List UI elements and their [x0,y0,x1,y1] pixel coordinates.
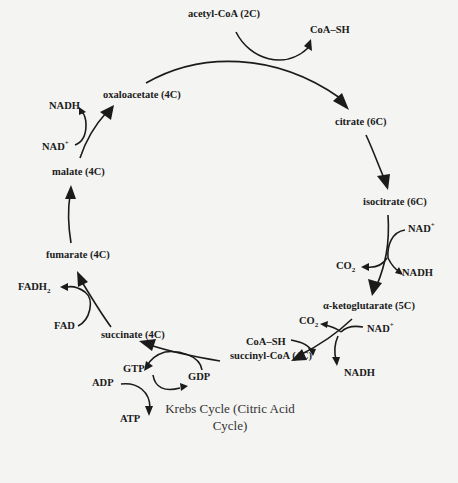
arrowhead-gdp [180,383,188,391]
label-nad-isocitrate: NAD+ [408,222,435,234]
title-line-2: Cycle) [150,417,310,434]
label-adp: ADP [92,378,114,389]
diagram-title: Krebs Cycle (Citric Acid Cycle) [150,400,310,434]
arrowhead-succinate [139,339,156,351]
label-fad: FAD [54,321,75,332]
arrowhead-co2 [361,263,369,271]
label-gdp: GDP [188,372,210,383]
arrow-gtp-to-gdp [153,375,180,389]
arrow-nad-in-isocitrate [388,230,405,258]
label-co2-akg: CO2 [299,316,318,329]
arrowhead-akg [368,279,382,296]
label-fadh2: FADH2 [18,282,50,295]
label-co2-isocitrate: CO2 [336,261,355,274]
label-nad-akg: NAD+ [367,322,394,334]
label-coa-sh-out: CoA–SH [310,25,350,36]
label-nadh-malate: NADH [49,101,80,112]
arrow-co2-out-akg [325,325,341,332]
arrowhead-fumarate [77,271,88,287]
label-malate: malate (4C) [52,167,105,178]
arrow-acetyl-coa-in [236,32,308,60]
label-atp: ATP [120,414,140,425]
label-nadh-akg: NADH [344,368,375,379]
label-nad-malate: NAD+ [42,140,69,152]
arrowhead-fadh2 [60,283,68,291]
arrowhead-malate [65,185,76,199]
label-isocitrate: isocitrate (6C) [363,197,427,208]
arrow-nadh-out-malate [82,112,86,125]
arrow-gdp-to-gtp [147,352,202,370]
arrow-succinate-to-fumarate [82,282,111,327]
arrow-nad-in-akg [341,326,363,332]
label-citrate: citrate (6C) [335,117,387,128]
label-fumarate: fumarate (4C) [46,250,110,261]
arrow-fumarate-to-malate [69,195,71,243]
label-coa-sh-in: CoA–SH [246,337,286,348]
label-succinyl-coa: succinyl-CoA (4C) [230,351,312,362]
label-succinate: succinate (4C) [101,330,165,341]
title-line-1: Krebs Cycle (Citric Acid [150,400,310,417]
arrow-citrate-to-isocitrate [366,135,385,180]
krebs-cycle-diagram: acetyl-CoA (2C) CoA–SH oxaloacetate (4C)… [0,0,458,483]
arrowhead-coa-sh [304,39,312,51]
arrow-adp-to-atp [121,384,150,408]
arrow-nad-in-malate [75,125,86,145]
arrowhead-nadh-akg [332,357,340,366]
arrowhead-co2-akg [320,321,328,328]
label-alpha-ketoglutarate: α-ketoglutarate (5C) [323,301,415,312]
arrow-isocitrate-to-akg [377,215,388,285]
label-gtp: GTP [123,364,145,375]
label-oxaloacetate: oxaloacetate (4C) [103,90,181,101]
label-acetyl-coa: acetyl-CoA (2C) [188,9,260,20]
arrowhead-isocitrate [377,174,390,190]
arrow-nadh-out-akg [335,336,338,360]
label-nadh-isocitrate: NADH [402,268,433,279]
